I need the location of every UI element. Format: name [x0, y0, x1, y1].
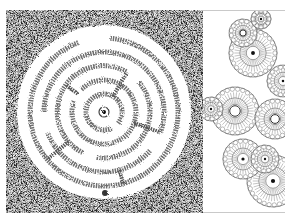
flower-mandala-illustration	[203, 11, 285, 212]
maze-rings	[17, 25, 191, 199]
flower-rosette	[255, 99, 285, 139]
maze-illustration	[6, 10, 203, 213]
flower-rosette	[251, 145, 279, 173]
mandala-page	[203, 10, 285, 213]
coloring-book-spread	[0, 0, 285, 218]
maze-page	[6, 10, 203, 213]
